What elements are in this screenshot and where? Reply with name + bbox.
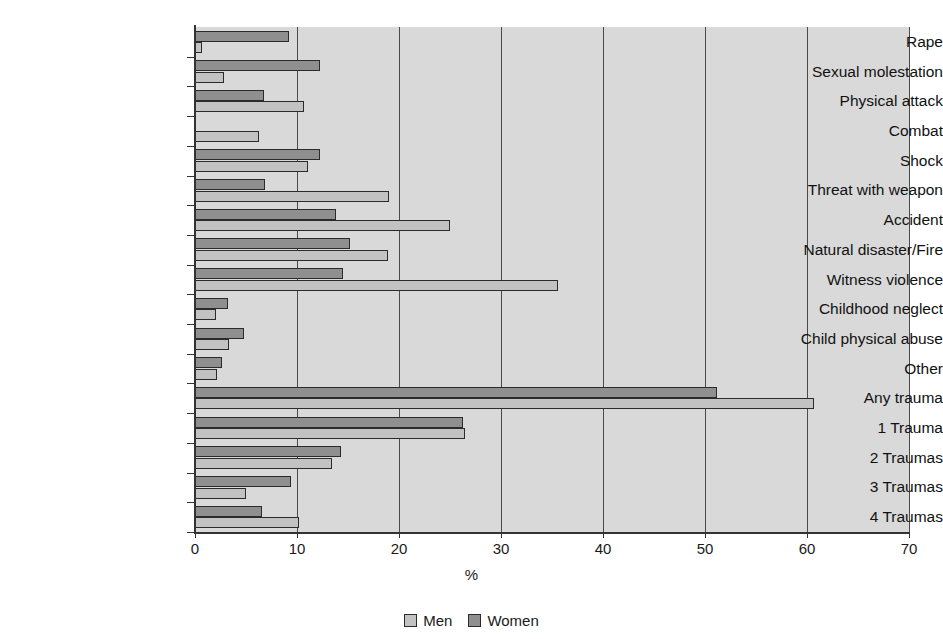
x-tick-label-20: 20 [369, 540, 429, 557]
x-tick-50 [705, 532, 706, 538]
x-tick-label-30: 30 [471, 540, 531, 557]
x-tick-0 [195, 532, 196, 538]
y-tick-4 [187, 176, 194, 177]
bar-women-8 [195, 268, 343, 279]
x-tick-label-60: 60 [777, 540, 837, 557]
y-tick-16 [187, 532, 194, 533]
women-swatch-icon [468, 614, 481, 627]
x-tick-label-70: 70 [879, 540, 939, 557]
bar-men-15 [195, 488, 246, 499]
category-label-12: Any trauma [757, 390, 943, 406]
bar-men-11 [195, 369, 217, 380]
category-label-9: Childhood neglect [757, 301, 943, 317]
bar-women-15 [195, 476, 291, 487]
chart-container: RapeSexual molestationPhysical attackCom… [0, 0, 943, 639]
bar-men-10 [195, 339, 229, 350]
y-tick-12 [187, 413, 194, 414]
category-label-15: 3 Traumas [757, 479, 943, 495]
y-tick-7 [187, 265, 194, 266]
bar-women-1 [195, 60, 320, 71]
x-tick-label-50: 50 [675, 540, 735, 557]
bar-men-12 [195, 398, 814, 409]
bar-men-0 [195, 42, 202, 53]
y-tick-8 [187, 294, 194, 295]
bar-women-11 [195, 357, 222, 368]
gridline-40 [603, 27, 604, 532]
category-label-14: 2 Traumas [757, 450, 943, 466]
category-label-7: Natural disaster/Fire [757, 242, 943, 258]
bar-men-3 [195, 131, 259, 142]
bar-women-14 [195, 446, 341, 457]
bar-men-7 [195, 250, 388, 261]
y-axis-line [194, 25, 196, 534]
y-tick-5 [187, 205, 194, 206]
bar-men-8 [195, 280, 558, 291]
bar-women-16 [195, 506, 262, 517]
bar-men-14 [195, 458, 332, 469]
category-label-1: Sexual molestation [757, 64, 943, 80]
x-tick-label-40: 40 [573, 540, 633, 557]
bar-men-6 [195, 220, 450, 231]
category-label-11: Other [757, 361, 943, 377]
category-label-2: Physical attack [757, 93, 943, 109]
y-tick-10 [187, 354, 194, 355]
y-tick-3 [187, 146, 194, 147]
bar-women-6 [195, 209, 336, 220]
x-tick-40 [603, 532, 604, 538]
x-tick-70 [909, 532, 910, 538]
bar-women-5 [195, 179, 265, 190]
bar-women-10 [195, 328, 244, 339]
y-tick-11 [187, 383, 194, 384]
bar-women-12 [195, 387, 717, 398]
y-tick-15 [187, 502, 194, 503]
x-tick-60 [807, 532, 808, 538]
category-label-16: 4 Traumas [757, 509, 943, 525]
legend-item-women: Women [468, 612, 538, 629]
bar-men-1 [195, 72, 224, 83]
y-tick-0 [187, 57, 194, 58]
y-tick-2 [187, 116, 194, 117]
category-label-5: Threat with weapon [757, 182, 943, 198]
bar-men-16 [195, 517, 299, 528]
bar-men-5 [195, 191, 389, 202]
y-tick-13 [187, 443, 194, 444]
bar-women-7 [195, 238, 350, 249]
x-tick-label-10: 10 [267, 540, 327, 557]
bar-women-13 [195, 417, 463, 428]
y-tick-9 [187, 324, 194, 325]
x-axis-title: % [0, 566, 943, 583]
x-tick-20 [399, 532, 400, 538]
category-label-8: Witness violence [757, 272, 943, 288]
bar-men-13 [195, 428, 465, 439]
bar-women-0 [195, 31, 289, 42]
x-tick-label-0: 0 [165, 540, 225, 557]
category-label-3: Combat [757, 123, 943, 139]
chart-legend: Men Women [0, 612, 943, 629]
bar-women-2 [195, 90, 264, 101]
y-tick-1 [187, 86, 194, 87]
category-label-0: Rape [757, 34, 943, 50]
legend-label-men: Men [423, 612, 452, 629]
gridline-50 [705, 27, 706, 532]
bar-women-9 [195, 298, 228, 309]
bar-men-2 [195, 101, 304, 112]
men-swatch-icon [404, 614, 417, 627]
y-tick-6 [187, 235, 194, 236]
x-tick-10 [297, 532, 298, 538]
x-axis-line [194, 532, 910, 534]
category-label-10: Child physical abuse [757, 331, 943, 347]
category-label-4: Shock [757, 153, 943, 169]
category-label-6: Accident [757, 212, 943, 228]
category-label-13: 1 Trauma [757, 420, 943, 436]
bar-men-9 [195, 309, 216, 320]
bar-men-4 [195, 161, 308, 172]
legend-item-men: Men [404, 612, 452, 629]
bar-women-4 [195, 149, 320, 160]
legend-label-women: Women [487, 612, 538, 629]
y-tick-14 [187, 473, 194, 474]
x-tick-30 [501, 532, 502, 538]
